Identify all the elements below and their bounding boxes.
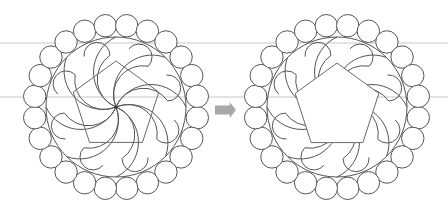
bead-circle [24,85,46,107]
bead-circle [357,172,379,194]
bead-circle [181,64,203,86]
swirl-outer-arc [114,55,166,107]
arrow-right-icon [215,102,236,118]
bead-circle [136,172,158,194]
pentagon-filled [295,63,379,143]
swirl-outer-arc [116,85,186,107]
swirl-lobe [116,75,181,107]
bead-circle [245,85,267,107]
bead-circle [250,127,272,149]
bead-circle [116,177,138,199]
bead-circle [116,15,138,37]
swirl-lobe [116,104,179,143]
bead-circle [186,107,208,129]
swirl-outer-arc [46,107,116,129]
bead-circle [94,177,116,199]
transform-arrow-icon [215,102,236,118]
swirl-lobe [80,107,119,170]
bead-circle [407,85,429,107]
bead-circle [94,15,116,37]
swirl-outer-arc [116,105,168,157]
swirl-lobe [113,44,152,107]
figure-before-swirl-with-pentagon-outline [24,15,209,200]
bead-circle [315,177,337,199]
center-point [114,105,117,108]
swirl-lobe [53,71,116,110]
bead-circle [73,20,95,42]
bead-circle [24,107,46,129]
bead-circle [245,107,267,129]
bead-circle [337,177,359,199]
bead-circle [407,107,429,129]
swirl-outer-arc [64,58,116,110]
bead-circle [29,127,51,149]
bead-circle [337,15,359,37]
bead-circle [294,20,316,42]
bead-circle [402,64,424,86]
swirl-outer-arc [67,107,119,159]
bead-circle [186,85,208,107]
figure-after-filled-pentagon [245,15,430,200]
bead-circle [315,15,337,37]
diagram-canvas [0,0,448,215]
